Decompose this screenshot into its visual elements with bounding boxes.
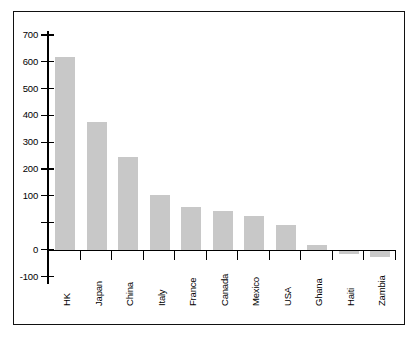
x-tick-mark bbox=[143, 250, 144, 260]
x-tick-mark bbox=[48, 250, 49, 260]
y-tick-label: 500 bbox=[0, 83, 38, 94]
x-tick-label-france: France bbox=[187, 278, 198, 306]
x-tick-label-ghana: Ghana bbox=[313, 278, 324, 306]
bar-china bbox=[118, 157, 138, 250]
x-tick-mark bbox=[80, 250, 81, 260]
y-tick-mark bbox=[41, 276, 54, 277]
figure: 700 600 500 400 300 200 100 0 -100 bbox=[0, 0, 417, 339]
y-tick-mark bbox=[41, 222, 54, 223]
y-axis-spine bbox=[47, 31, 49, 284]
y-tick-label: 400 bbox=[0, 109, 38, 120]
x-tick-mark bbox=[174, 250, 175, 260]
y-tick-mark bbox=[41, 34, 54, 35]
x-tick-mark bbox=[111, 250, 112, 260]
x-tick-label-haiti: Haiti bbox=[345, 288, 356, 306]
x-tick-mark bbox=[300, 250, 301, 260]
x-tick-label-italy: Italy bbox=[156, 290, 167, 306]
y-tick-mark bbox=[41, 115, 54, 116]
y-tick-label: 200 bbox=[0, 163, 38, 174]
x-tick-mark bbox=[206, 250, 207, 260]
y-tick-label: 600 bbox=[0, 56, 38, 67]
bar-france bbox=[181, 207, 201, 250]
y-tick-mark bbox=[41, 168, 54, 169]
x-tick-label-china: China bbox=[124, 282, 135, 306]
y-tick-mark bbox=[41, 195, 54, 196]
y-tick-label: 700 bbox=[0, 29, 38, 40]
bar-haiti bbox=[339, 251, 359, 253]
y-tick-label: 0 bbox=[0, 244, 38, 255]
bar-ghana bbox=[307, 245, 327, 250]
x-tick-mark bbox=[363, 250, 364, 260]
x-tick-label-hk: HK bbox=[61, 293, 72, 306]
bar-japan bbox=[87, 122, 107, 250]
x-tick-mark bbox=[237, 250, 238, 260]
bar-italy bbox=[150, 195, 170, 250]
y-tick-mark bbox=[41, 142, 54, 143]
y-tick-label: -100 bbox=[0, 271, 38, 282]
x-tick-label-mexico: Mexico bbox=[250, 277, 261, 306]
x-tick-mark bbox=[269, 250, 270, 260]
x-tick-label-usa: USA bbox=[282, 287, 293, 306]
x-tick-label-zambia: Zambia bbox=[376, 276, 387, 306]
x-tick-mark bbox=[332, 250, 333, 260]
x-tick-label-canada: Canada bbox=[219, 274, 230, 306]
y-tick-label: 300 bbox=[0, 136, 38, 147]
bar-mexico bbox=[244, 216, 264, 250]
y-tick-mark bbox=[41, 88, 54, 89]
bar-canada bbox=[213, 211, 233, 250]
bar-chart-plot: 700 600 500 400 300 200 100 0 -100 bbox=[0, 0, 417, 339]
y-tick-label: 100 bbox=[0, 190, 38, 201]
x-tick-label-japan: Japan bbox=[93, 281, 104, 306]
x-tick-mark bbox=[395, 250, 396, 260]
bar-usa bbox=[276, 225, 296, 250]
y-tick-mark bbox=[41, 61, 54, 62]
bar-zambia bbox=[370, 251, 390, 257]
bar-hk bbox=[55, 57, 75, 250]
